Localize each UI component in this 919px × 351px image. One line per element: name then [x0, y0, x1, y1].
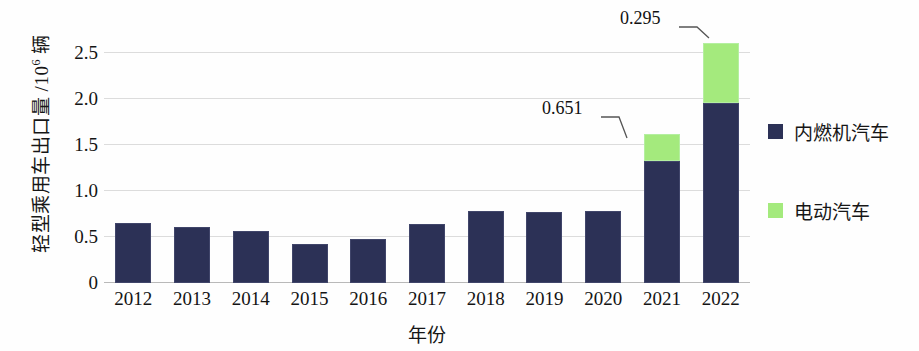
y-tick-label: 2.5 — [52, 42, 98, 64]
bar-group[interactable] — [350, 30, 386, 283]
y-tick-label: 2.0 — [52, 88, 98, 110]
bar-segment-ev[interactable] — [703, 43, 739, 103]
bar-group[interactable] — [115, 30, 151, 283]
value-annotation: 0.295 — [620, 8, 661, 29]
legend-swatch-icon-ice — [768, 124, 783, 139]
x-tick-label: 2018 — [456, 288, 516, 310]
bar-group[interactable] — [292, 30, 328, 283]
bar-segment-ice[interactable] — [409, 224, 445, 283]
bar-segment-ice[interactable] — [468, 211, 504, 283]
bar-segment-ice[interactable] — [350, 239, 386, 283]
legend-item-ice: 内燃机汽车 — [768, 118, 918, 145]
y-tick-label: 0.5 — [52, 226, 98, 248]
bar-group[interactable] — [468, 30, 504, 283]
x-tick-label: 2022 — [691, 288, 751, 310]
legend-swatch-icon-ev — [768, 203, 783, 218]
bar-group[interactable] — [409, 30, 445, 283]
x-tick-label: 2021 — [632, 288, 692, 310]
legend-label-ev: 电动汽车 — [794, 197, 870, 224]
legend: 内燃机汽车 电动汽车 — [768, 118, 918, 276]
bar-segment-ice[interactable] — [644, 161, 680, 283]
bar-group[interactable] — [174, 30, 210, 283]
x-tick-label: 2015 — [280, 288, 340, 310]
legend-item-ev: 电动汽车 — [768, 197, 918, 224]
x-tick-label: 2017 — [397, 288, 457, 310]
bar-segment-ice[interactable] — [526, 212, 562, 283]
chart-figure: 轻型乘用车出口量 /106 辆 00.51.01.52.02.5 2012201… — [0, 0, 919, 351]
legend-label-ice: 内燃机汽车 — [794, 118, 889, 145]
bar-segment-ice[interactable] — [233, 231, 269, 283]
bar-segment-ice[interactable] — [174, 227, 210, 283]
bar-group[interactable] — [585, 30, 621, 283]
bar-group[interactable] — [703, 30, 739, 283]
bar-segment-ice[interactable] — [292, 244, 328, 283]
bar-segment-ev[interactable] — [644, 134, 680, 161]
y-axis-label-exponent: 6 — [29, 59, 43, 66]
x-tick-label: 2014 — [221, 288, 281, 310]
x-tick-label: 2020 — [573, 288, 633, 310]
bar-series-container — [104, 30, 750, 283]
y-axis-ticks: 00.51.01.52.02.5 — [48, 30, 98, 283]
bar-group[interactable] — [233, 30, 269, 283]
x-tick-label: 2012 — [103, 288, 163, 310]
bar-segment-ice[interactable] — [703, 103, 739, 283]
x-tick-label: 2019 — [514, 288, 574, 310]
bar-segment-ice[interactable] — [585, 211, 621, 283]
bar-group[interactable] — [526, 30, 562, 283]
bar-segment-ice[interactable] — [115, 223, 151, 283]
x-axis-label: 年份 — [104, 320, 750, 347]
x-tick-label: 2013 — [162, 288, 222, 310]
y-tick-label: 0 — [52, 272, 98, 294]
y-tick-label: 1.0 — [52, 180, 98, 202]
x-axis-ticks: 2012201320142015201620172018201920202021… — [104, 288, 750, 314]
value-annotation: 0.651 — [542, 98, 583, 119]
y-tick-label: 1.5 — [52, 134, 98, 156]
x-tick-label: 2016 — [338, 288, 398, 310]
bar-group[interactable] — [644, 30, 680, 283]
